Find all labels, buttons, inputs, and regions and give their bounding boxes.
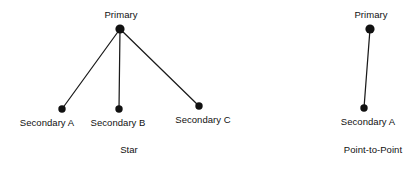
label-star-secondary-a: Secondary A <box>20 117 74 128</box>
star-nodes <box>58 24 202 112</box>
point-to-point-links <box>364 29 370 108</box>
node-star-secondary-b <box>115 105 122 112</box>
star-links <box>62 29 199 109</box>
node-ptp-secondary-a <box>360 104 367 111</box>
caption-point-to-point: Point-to-Point <box>344 144 402 155</box>
node-ptp-primary <box>365 24 374 33</box>
node-star-secondary-a <box>58 105 65 112</box>
label-star-secondary-b: Secondary B <box>91 117 146 128</box>
network-topology-figure: Primary Secondary A Secondary B Secondar… <box>0 0 419 172</box>
label-ptp-primary: Primary <box>354 9 387 20</box>
caption-star: Star <box>120 144 138 155</box>
label-ptp-secondary-a: Secondary A <box>341 116 395 127</box>
label-star-primary: Primary <box>104 9 137 20</box>
link-primary-to-secondary-b <box>119 29 120 109</box>
link-primary-to-secondary-a <box>62 29 120 109</box>
node-star-primary <box>115 24 124 33</box>
link-primary-to-secondary-c <box>120 29 199 106</box>
link-ptp-primary-to-secondary-a <box>364 29 370 108</box>
label-star-secondary-c: Secondary C <box>175 114 230 125</box>
node-star-secondary-c <box>195 102 202 109</box>
